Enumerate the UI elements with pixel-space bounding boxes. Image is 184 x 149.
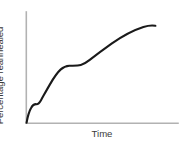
x-axis-label: Time [26,128,178,139]
chart-plot-area [0,0,184,149]
chart-figure: Percentage reannealed Time [0,0,184,149]
reanneal-curve [27,26,156,123]
